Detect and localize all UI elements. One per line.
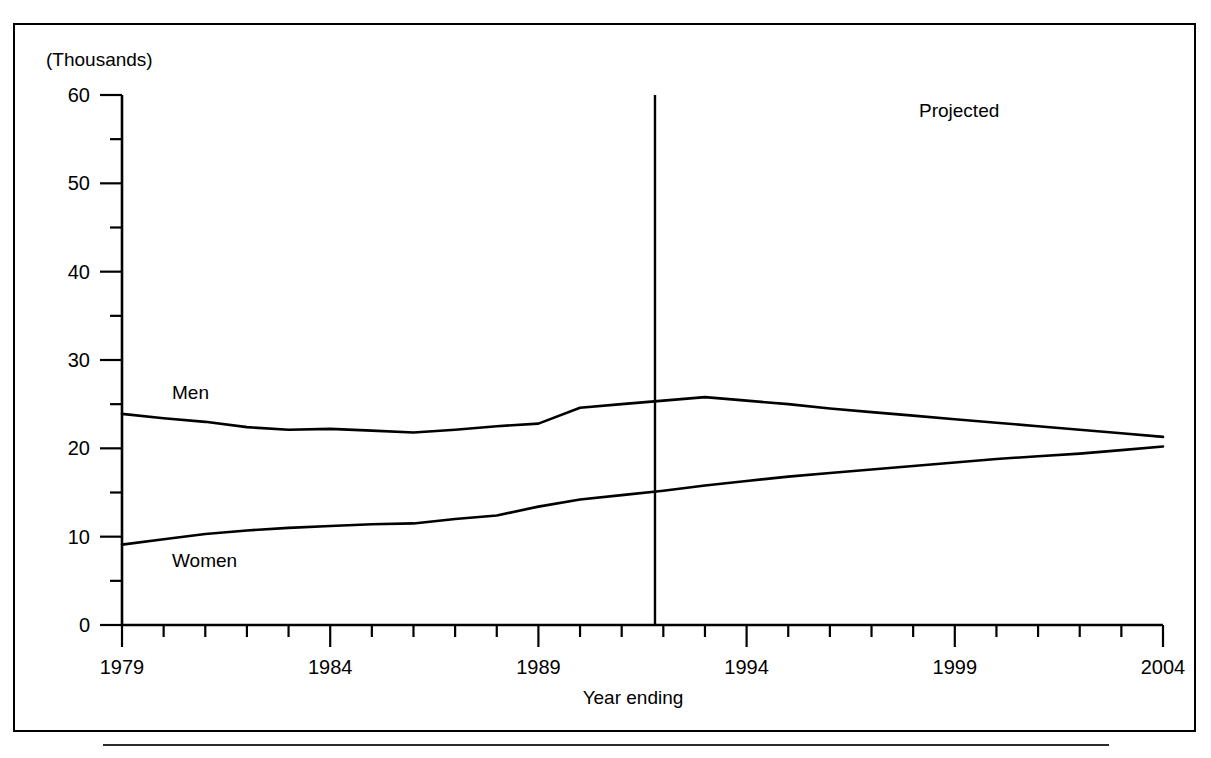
y-tick-label: 30: [46, 350, 90, 370]
axes: [122, 95, 1163, 625]
scan-artifact-line: [103, 744, 1109, 746]
axis-ticks: [100, 95, 1163, 647]
y-tick-label: 20: [46, 438, 90, 458]
series-label-women: Women: [172, 551, 237, 570]
x-tick-label: 1984: [290, 657, 370, 677]
y-tick-label: 10: [46, 527, 90, 547]
x-axis-title: Year ending: [533, 688, 733, 707]
axis-spines: [122, 95, 1163, 625]
x-tick-label: 2004: [1123, 657, 1203, 677]
series-label-men: Men: [172, 383, 209, 402]
y-tick-label: 40: [46, 262, 90, 282]
y-tick-label: 60: [46, 85, 90, 105]
series-line-men: [122, 397, 1163, 437]
x-tick-label: 1989: [498, 657, 578, 677]
x-tick-label: 1994: [707, 657, 787, 677]
chart-canvas: [0, 0, 1211, 758]
y-axis-units-label: (Thousands): [46, 50, 153, 69]
projected-annotation: Projected: [919, 101, 999, 120]
x-tick-label: 1979: [82, 657, 162, 677]
y-tick-label: 0: [46, 615, 90, 635]
series-line-women: [122, 447, 1163, 545]
figure-container: (Thousands) 0102030405060 19791984198919…: [0, 0, 1211, 758]
x-tick-label: 1999: [915, 657, 995, 677]
y-tick-label: 50: [46, 173, 90, 193]
